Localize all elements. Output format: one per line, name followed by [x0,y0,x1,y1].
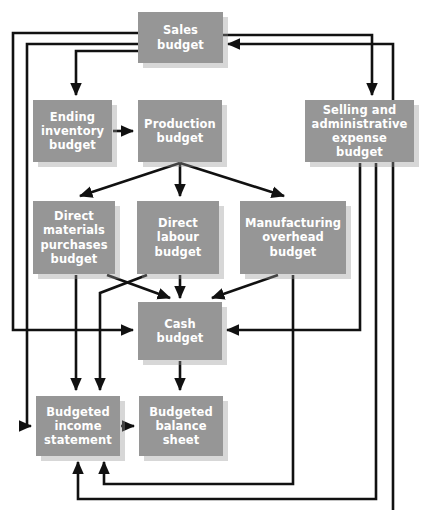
node-label-cash-budget: Cash budget [154,317,207,345]
node-label-direct-materials-purchases-budget: Direct materials purchases budget [37,209,110,265]
node-ending-inventory-budget[interactable]: Ending inventory budget [33,100,112,162]
node-label-selling-and-administrative-expense-budget: Selling and administrative expense budge… [305,103,414,159]
node-label-sales-budget: Sales budget [154,23,207,51]
node-label-production-budget: Production budget [141,117,219,145]
node-budgeted-income-statement[interactable]: Budgeted income statement [36,396,120,456]
node-direct-materials-purchases-budget[interactable]: Direct materials purchases budget [33,201,115,274]
edge-sales-to-ending-inventory [76,51,138,95]
edge-manufacturing-overhead-to-cash [212,275,278,298]
node-label-ending-inventory-budget: Ending inventory budget [38,110,107,152]
node-label-budgeted-income-statement: Budgeted income statement [41,405,115,447]
edge-production-to-direct-materials [80,163,180,196]
node-label-manufacturing-overhead-budget: Manufacturing overhead budget [242,216,344,258]
node-budgeted-balance-sheet[interactable]: Budgeted balance sheet [139,396,223,456]
node-selling-and-administrative-expense-budget[interactable]: Selling and administrative expense budge… [305,100,414,162]
node-label-budgeted-balance-sheet: Budgeted balance sheet [146,405,216,447]
node-sales-budget[interactable]: Sales budget [138,12,223,63]
node-cash-budget[interactable]: Cash budget [138,302,222,360]
node-production-budget[interactable]: Production budget [138,100,222,162]
node-manufacturing-overhead-budget[interactable]: Manufacturing overhead budget [240,201,346,274]
edge-production-to-manufacturing-overhead [180,163,284,196]
node-label-direct-labour-budget: Direct labour budget [152,216,205,258]
node-direct-labour-budget[interactable]: Direct labour budget [137,201,219,274]
master-budget-flowchart: Sales budget Ending inventory budget Pro… [0,0,431,515]
